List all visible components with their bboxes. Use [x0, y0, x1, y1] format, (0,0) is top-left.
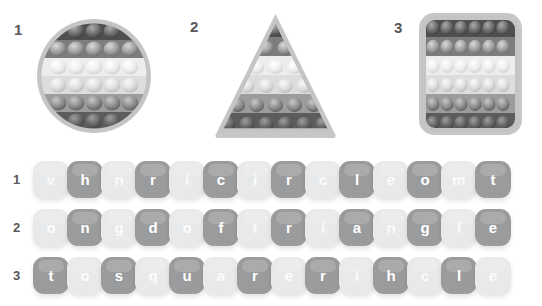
popit-square-icon: [418, 12, 523, 136]
letter-tile[interactable]: a: [339, 209, 375, 246]
letter-tiles-2: ongdoftriangle: [33, 205, 509, 249]
letter-tiles-1: vhnricircleomt: [33, 157, 509, 201]
letter-row-number-3: 3: [0, 268, 33, 283]
letter-tile-label: e: [489, 219, 497, 236]
letter-tile[interactable]: c: [305, 161, 341, 198]
letter-tile[interactable]: r: [135, 161, 171, 198]
letter-tile-label: t: [49, 267, 54, 284]
letter-tile[interactable]: d: [135, 209, 171, 246]
letter-tile[interactable]: r: [271, 209, 307, 246]
letter-tile[interactable]: r: [237, 257, 273, 294]
letter-row-number-2: 2: [0, 220, 33, 235]
letter-tile-label: l: [457, 219, 461, 236]
letter-tile[interactable]: f: [203, 209, 239, 246]
popit-toys-section: 1: [0, 0, 542, 150]
letter-tile[interactable]: t: [237, 209, 273, 246]
letter-tile-label: h: [80, 171, 89, 188]
letter-tile-label: o: [420, 171, 429, 188]
letter-tile-label: r: [286, 171, 292, 188]
letter-tile-label: f: [219, 219, 224, 236]
letter-tile-label: g: [420, 219, 429, 236]
letter-tile-label: m: [452, 171, 465, 188]
letter-tile-label: c: [217, 171, 225, 188]
letter-tile[interactable]: n: [67, 209, 103, 246]
letter-tile-label: v: [47, 171, 55, 188]
letter-tile-label: q: [148, 267, 157, 284]
popit-toy-triangle: 2: [175, 0, 360, 150]
letter-tile[interactable]: c: [407, 257, 443, 294]
letter-tile-label: r: [320, 267, 326, 284]
letter-tile[interactable]: s: [101, 257, 137, 294]
popit-toy-circle: 1: [0, 0, 175, 150]
worksheet-canvas: 1: [0, 0, 542, 306]
letter-tile-label: a: [217, 267, 225, 284]
popit-triangle-icon: [213, 10, 338, 140]
letter-tile-label: i: [185, 171, 189, 188]
letter-tile-label: g: [114, 219, 123, 236]
letter-tile[interactable]: e: [373, 161, 409, 198]
letter-tile-label: n: [80, 219, 89, 236]
letter-tile[interactable]: t: [475, 161, 511, 198]
letter-tile[interactable]: a: [203, 257, 239, 294]
letter-tile[interactable]: c: [203, 161, 239, 198]
letter-tile-label: i: [253, 171, 257, 188]
letter-tile[interactable]: g: [407, 209, 443, 246]
letter-tile[interactable]: h: [67, 161, 103, 198]
letter-row-3: 3 tosquarerihcle: [0, 251, 542, 299]
letter-tile-label: s: [115, 267, 123, 284]
letter-tile[interactable]: i: [237, 161, 273, 198]
popit-circle-icon: [35, 15, 153, 137]
letter-tile-label: t: [491, 171, 496, 188]
letter-tile[interactable]: r: [305, 257, 341, 294]
letter-tile[interactable]: t: [33, 257, 69, 294]
letter-tile[interactable]: l: [339, 161, 375, 198]
letter-tile[interactable]: v: [33, 161, 69, 198]
letter-tile[interactable]: g: [101, 209, 137, 246]
letter-tile[interactable]: u: [169, 257, 205, 294]
letter-tile[interactable]: h: [373, 257, 409, 294]
letter-tile-label: o: [46, 219, 55, 236]
letter-tile[interactable]: e: [271, 257, 307, 294]
letter-tile-label: i: [355, 267, 359, 284]
letter-tile-label: e: [285, 267, 293, 284]
letter-tile[interactable]: l: [441, 257, 477, 294]
letter-tile-label: h: [386, 267, 395, 284]
letter-tile[interactable]: i: [169, 161, 205, 198]
letter-tile[interactable]: o: [67, 257, 103, 294]
letter-tile-label: i: [321, 219, 325, 236]
letter-tile[interactable]: m: [441, 161, 477, 198]
letter-tile[interactable]: q: [135, 257, 171, 294]
letter-tile[interactable]: i: [339, 257, 375, 294]
letter-tile-label: n: [114, 171, 123, 188]
toy-number-2: 2: [190, 19, 198, 34]
letter-rows-section: 1 vhnricircleomt 2 ongdoftriangle 3 tosq…: [0, 150, 542, 306]
letter-row-2: 2 ongdoftriangle: [0, 203, 542, 251]
letter-tile-label: c: [421, 267, 429, 284]
letter-tile-label: o: [182, 219, 191, 236]
toy-number-3: 3: [394, 20, 402, 35]
letter-tile-label: u: [182, 267, 191, 284]
letter-tile[interactable]: e: [475, 209, 511, 246]
letter-tile[interactable]: o: [33, 209, 69, 246]
letter-tile-label: n: [386, 219, 395, 236]
letter-tile-label: o: [80, 267, 89, 284]
letter-tile-label: r: [252, 267, 258, 284]
letter-tile[interactable]: o: [407, 161, 443, 198]
letter-tile[interactable]: o: [169, 209, 205, 246]
letter-row-number-1: 1: [0, 172, 33, 187]
letter-tile-label: t: [253, 219, 258, 236]
toy-number-1: 1: [14, 22, 22, 37]
letter-tile-label: e: [489, 267, 497, 284]
letter-tile[interactable]: n: [373, 209, 409, 246]
letter-tile[interactable]: i: [305, 209, 341, 246]
letter-tile-label: a: [353, 219, 361, 236]
letter-tile[interactable]: l: [441, 209, 477, 246]
letter-tiles-3: tosquarerihcle: [33, 253, 509, 297]
letter-tile-label: d: [148, 219, 157, 236]
popit-toy-square: 3: [380, 0, 542, 150]
letter-tile[interactable]: e: [475, 257, 511, 294]
letter-tile-label: l: [457, 267, 461, 284]
letter-tile[interactable]: n: [101, 161, 137, 198]
letter-tile-label: c: [319, 171, 327, 188]
letter-tile[interactable]: r: [271, 161, 307, 198]
